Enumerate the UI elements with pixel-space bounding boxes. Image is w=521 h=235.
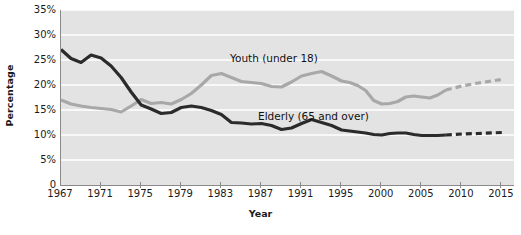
x-tick-mark — [100, 182, 101, 188]
x-tick-mark — [300, 182, 301, 188]
x-tick-mark — [500, 182, 501, 188]
x-axis-tick-labels: 1967197119751979198319871991199520002005… — [0, 188, 521, 204]
x-tick-label: 1979 — [168, 188, 193, 200]
x-tick-label: 1983 — [208, 188, 233, 200]
plot-area — [60, 10, 514, 185]
y-axis-title-text: Percentage — [4, 64, 15, 126]
x-tick-mark — [380, 182, 381, 188]
x-tick-mark — [260, 182, 261, 188]
x-tick-mark — [340, 182, 341, 188]
y-tick-label: 20% — [16, 80, 56, 90]
series-line-youth — [61, 72, 446, 113]
x-tick-label: 2015 — [488, 188, 513, 200]
x-tick-label: 1987 — [248, 188, 273, 200]
x-tick-mark — [460, 182, 461, 188]
x-axis-line — [60, 185, 514, 186]
y-tick-label: 25% — [16, 55, 56, 65]
x-tick-label: 1967 — [47, 188, 72, 200]
x-tick-label: 1975 — [127, 188, 152, 200]
x-tick-mark — [180, 182, 181, 188]
x-tick-label: 2000 — [368, 188, 393, 200]
x-tick-mark — [420, 182, 421, 188]
y-tick-label: 5% — [16, 155, 56, 165]
y-tick-label: 15% — [16, 105, 56, 115]
x-tick-mark — [220, 182, 221, 188]
x-axis-title: Year — [0, 208, 521, 219]
x-tick-label: 1991 — [288, 188, 313, 200]
x-tick-label: 1971 — [87, 188, 112, 200]
y-tick-label: 30% — [16, 30, 56, 40]
x-tick-label: 2005 — [408, 188, 433, 200]
x-tick-label: 2010 — [448, 188, 473, 200]
x-axis-title-text: Year — [249, 208, 273, 219]
y-tick-label: 10% — [16, 130, 56, 140]
chart-plot-svg — [61, 10, 514, 185]
series-label-youth: Youth (under 18) — [230, 52, 318, 64]
chart-container: Percentage 05%10%15%20%25%30%35% 1967197… — [0, 0, 521, 235]
series-label-elderly: Elderly (65 and over) — [258, 110, 369, 122]
x-tick-label: 1995 — [328, 188, 353, 200]
y-tick-label: 35% — [16, 5, 56, 15]
x-tick-mark — [140, 182, 141, 188]
